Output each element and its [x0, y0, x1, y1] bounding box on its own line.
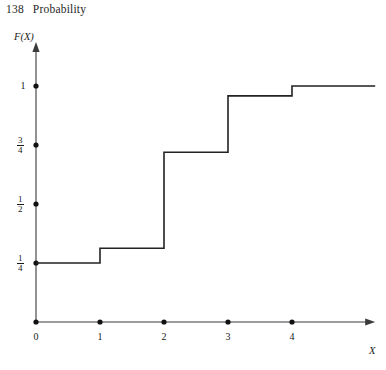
fraction-denominator: 4 [17, 145, 24, 155]
x-axis-label: X [369, 345, 375, 356]
y-tick-label-2: 34 [17, 136, 24, 155]
x-tick-label-1: 1 [92, 331, 108, 342]
fraction-denominator: 4 [17, 263, 24, 273]
fraction-numerator: 1 [17, 195, 24, 204]
fraction-numerator: 3 [17, 136, 24, 145]
y-axis-arrow [32, 42, 39, 52]
caption-fragment [6, 363, 380, 370]
y-tick-label-0: 14 [17, 254, 24, 273]
x-tick-label-4: 4 [284, 331, 300, 342]
y-tick-label-3: 1 [17, 80, 29, 91]
x-tick-label-3: 3 [220, 331, 236, 342]
fraction-numerator: 1 [17, 254, 24, 263]
figure-step-function: F(X) X 01234 1412341 [0, 0, 386, 370]
x-tick-dot-3 [225, 319, 230, 324]
y-tick-dot-1 [33, 201, 38, 206]
x-tick-dot-1 [97, 319, 102, 324]
x-tick-dot-4 [289, 319, 294, 324]
x-axis-arrow [365, 318, 375, 325]
y-axis-label: F(X) [14, 31, 34, 42]
y-tick-label-1: 12 [17, 195, 24, 214]
y-tick-dot-3 [33, 83, 38, 88]
step-curve [36, 86, 375, 263]
x-tick-label-2: 2 [156, 331, 172, 342]
page-root: 138Probability F(X) X 01234 1412341 [0, 0, 386, 370]
x-tick-dot-0 [33, 319, 38, 324]
x-tick-label-0: 0 [28, 331, 44, 342]
axes-group [32, 42, 375, 326]
fraction-denominator: 2 [17, 204, 24, 214]
step-curve-group [36, 86, 375, 263]
y-tick-dot-2 [33, 142, 38, 147]
x-tick-dot-2 [161, 319, 166, 324]
cdf-step-plot [0, 0, 386, 370]
